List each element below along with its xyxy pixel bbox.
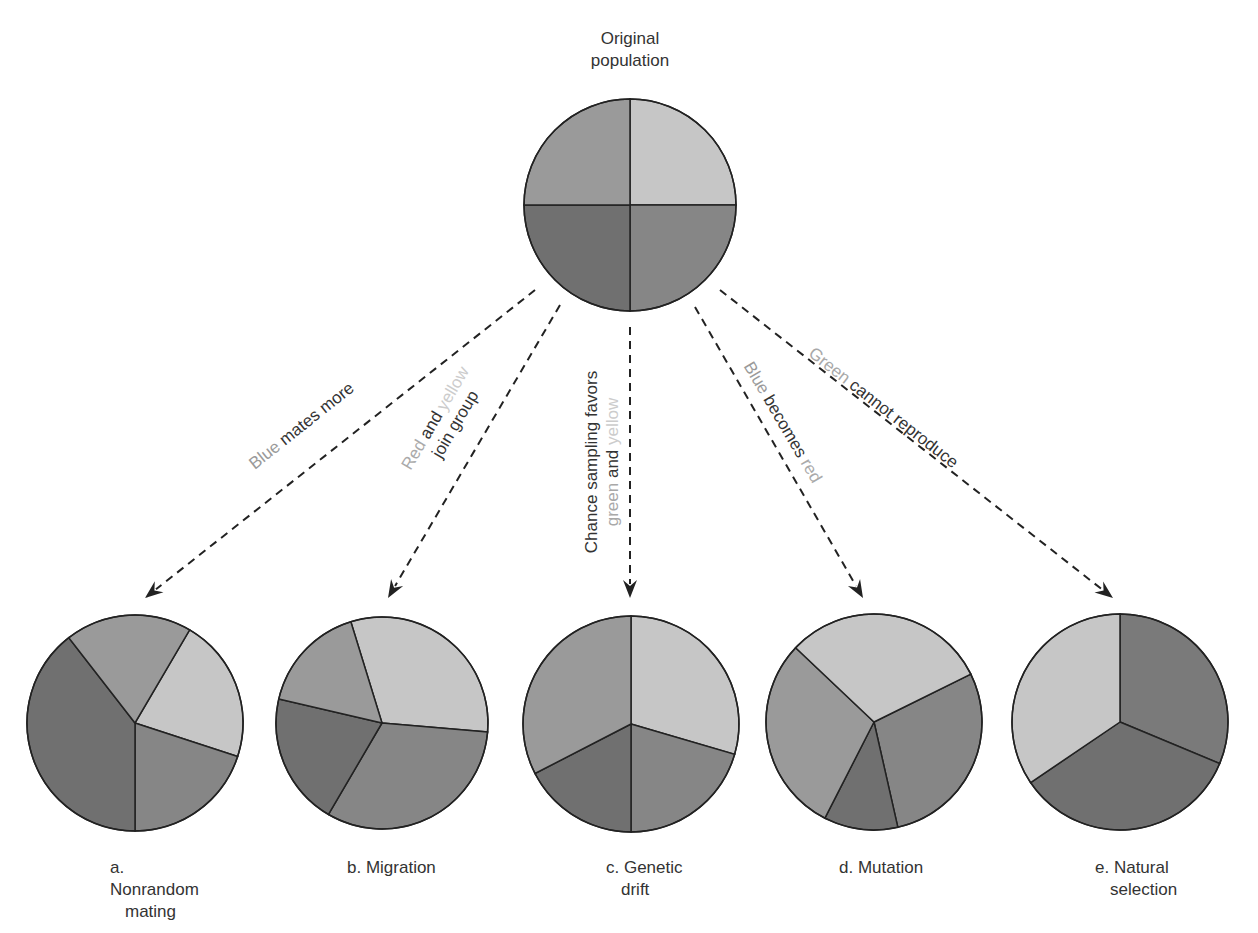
arrow-label: green and yellow [603, 397, 622, 526]
caption-mutation: d. Mutation [794, 857, 954, 879]
caption-natural-selection: e. Naturalselection [1040, 857, 1200, 901]
original-pie [524, 99, 736, 311]
arrowhead-icon [1095, 581, 1113, 598]
pie-slice [630, 99, 736, 205]
arrow-label: Blue mates more [245, 378, 357, 473]
pie-slice [524, 99, 630, 205]
evolution-diagram: Blue mates moreRed and yellowjoin groupC… [0, 0, 1258, 933]
arrowhead-icon [388, 579, 403, 598]
pie-d [766, 614, 982, 830]
arrow-label: Blue becomes red [740, 358, 826, 486]
caption-genetic-drift: c. Geneticdrift [551, 857, 711, 901]
arrow-nonrandom-mating [145, 290, 535, 598]
pie-e [1012, 614, 1228, 830]
pie-a [27, 615, 243, 831]
pie-b [276, 617, 488, 829]
arrow-label: Chance sampling favors [582, 371, 601, 553]
arrow-label: Green cannot reproduce [805, 343, 962, 471]
arrowhead-icon [145, 581, 163, 598]
arrow-mutation [695, 307, 863, 598]
caption-migration: b. Migration [302, 857, 462, 879]
pie-slice [630, 205, 736, 311]
arrow-genetic-drift [623, 327, 637, 598]
caption-nonrandom-mating: a. Nonrandommating [55, 857, 215, 923]
arrowhead-icon [848, 579, 863, 598]
pie-slice [524, 205, 630, 311]
pie-c [523, 616, 739, 832]
